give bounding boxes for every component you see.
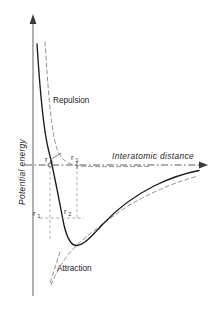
x-axis-arrow-icon bbox=[199, 162, 208, 169]
y-axis-label: Potential energy bbox=[17, 138, 27, 205]
marker-r0-sub: 0 bbox=[50, 159, 53, 165]
repulsion-label: Repulsion bbox=[53, 96, 90, 105]
marker-r2-base: r bbox=[64, 207, 67, 216]
marker-r1-left: r 1 bbox=[33, 209, 41, 219]
marker-r1-top-base: r bbox=[71, 153, 74, 162]
x-axis-label: Interatomic distance bbox=[112, 151, 194, 161]
net-potential-curve bbox=[37, 44, 199, 246]
marker-r1-left-base: r bbox=[33, 209, 36, 218]
marker-r1-top: r 1 bbox=[71, 153, 79, 163]
marker-r2-sub: 2 bbox=[69, 211, 72, 217]
marker-r0: r 0 bbox=[45, 155, 53, 165]
y-axis bbox=[30, 14, 37, 296]
attraction-label: Attraction bbox=[57, 264, 92, 273]
marker-r0-base: r bbox=[45, 155, 48, 164]
guide-lines bbox=[40, 153, 84, 240]
potential-energy-diagram: Potential energy Interatomic distance Re… bbox=[0, 0, 215, 315]
y-axis-arrow-icon bbox=[30, 14, 37, 24]
marker-r2: r 2 bbox=[64, 207, 72, 217]
marker-r1-top-sub: 1 bbox=[76, 157, 79, 163]
marker-r1-left-sub: 1 bbox=[38, 213, 41, 219]
